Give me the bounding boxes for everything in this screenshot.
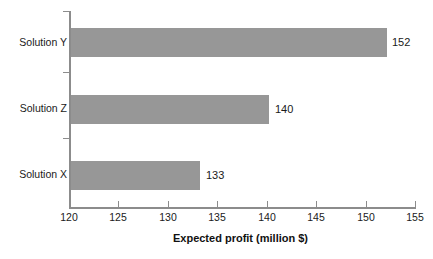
category-label-solution-x: Solution X: [19, 168, 67, 180]
bar-solution-z: [71, 95, 269, 124]
x-tick-mark-7: [415, 201, 416, 208]
bar-chart: 120 125 130 135 140 145 150 155 Solution…: [0, 0, 433, 259]
x-tick-mark-2: [168, 201, 169, 208]
bar-solution-y: [71, 28, 387, 57]
y-axis-tick-2: [63, 138, 70, 139]
x-tick-label-4: 140: [258, 211, 276, 223]
x-tick-mark-3: [217, 201, 218, 208]
y-axis-top-tick: [63, 11, 70, 12]
x-tick-label-3: 135: [208, 211, 226, 223]
x-axis-title: Expected profit (million $): [0, 232, 433, 244]
bar-value-solution-y: 152: [392, 36, 410, 48]
x-axis-line: [69, 207, 416, 209]
bar-solution-x: [71, 161, 200, 190]
x-tick-label-5: 145: [307, 211, 325, 223]
x-tick-label-2: 130: [159, 211, 177, 223]
x-tick-mark-6: [366, 201, 367, 208]
bar-value-solution-z: 140: [275, 103, 293, 115]
x-tick-mark-1: [118, 201, 119, 208]
x-tick-mark-4: [267, 201, 268, 208]
x-tick-label-7: 155: [406, 211, 424, 223]
x-tick-label-0: 120: [60, 211, 78, 223]
category-label-solution-y: Solution Y: [19, 36, 67, 48]
x-axis-title-text: Expected profit (million $): [125, 232, 308, 244]
bar-value-solution-x: 133: [206, 169, 224, 181]
y-axis-tick-1: [63, 72, 70, 73]
x-tick-label-6: 150: [357, 211, 375, 223]
x-tick-mark-0: [69, 201, 70, 208]
category-label-solution-z: Solution Z: [20, 102, 67, 114]
x-tick-mark-5: [316, 201, 317, 208]
x-tick-label-1: 125: [109, 211, 127, 223]
